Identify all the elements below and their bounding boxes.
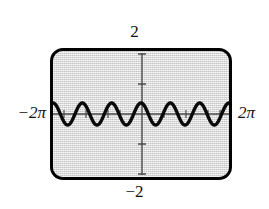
y-max-label: 2 <box>0 23 269 40</box>
y-min-label: −2 <box>0 183 269 200</box>
x-min-label: −2π <box>18 104 47 121</box>
calculator-screen <box>50 48 232 180</box>
graph-figure: 2 −2π <box>0 0 269 209</box>
x-max-label: 2π <box>238 104 255 121</box>
plot-area <box>53 51 229 177</box>
